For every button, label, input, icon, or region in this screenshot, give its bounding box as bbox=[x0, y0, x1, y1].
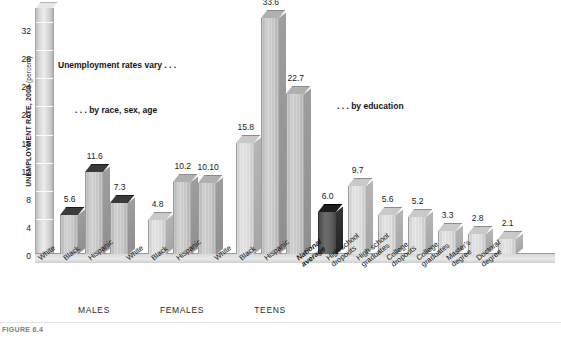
y-tick-label: 20 bbox=[22, 110, 31, 120]
axis-wall-rib bbox=[36, 191, 53, 192]
bar-value-label: 4.8 bbox=[152, 199, 164, 209]
y-tick-label: 12 bbox=[22, 167, 31, 177]
bar-value-label: 3.3 bbox=[442, 210, 454, 220]
y-tick-label: 8 bbox=[26, 195, 31, 205]
bar-value-label: 5.2 bbox=[412, 196, 424, 206]
bar-value-label: 11.6 bbox=[87, 151, 103, 161]
bar-value-label: 5.6 bbox=[382, 194, 394, 204]
bar-front-face bbox=[261, 18, 281, 254]
figure-container: UNEMPLOYMENT RATE, 2003 (percent) 048121… bbox=[0, 0, 561, 337]
bar-side-face bbox=[254, 137, 261, 254]
axis-wall-rib bbox=[36, 163, 53, 164]
annotation-by-education: . . . by education bbox=[337, 101, 404, 111]
bar: 15.8 bbox=[236, 143, 254, 254]
bar-value-label: 2.8 bbox=[472, 213, 484, 223]
axis-wall-rib bbox=[36, 106, 53, 107]
bar: 11.6 bbox=[85, 172, 103, 254]
bar-value-label: 5.6 bbox=[64, 194, 76, 204]
bar-side-face bbox=[304, 89, 311, 254]
annotation-by-race-sex-age: . . . by race, sex, age bbox=[75, 105, 157, 115]
bar-front-face bbox=[286, 94, 306, 254]
bar-value-label: 10.10 bbox=[197, 162, 218, 172]
figure-caption: FIGURE 6.4 bbox=[2, 326, 43, 333]
bar-value-label: 15.8 bbox=[238, 122, 255, 132]
group-label: MALES bbox=[78, 305, 110, 315]
y-tick-label: 4 bbox=[26, 223, 31, 233]
axis-wall-rib bbox=[36, 135, 53, 136]
bar-series: 5.611.67.34.810.210.1015.833.622.76.09.7… bbox=[52, 15, 555, 254]
y-tick-label: 16 bbox=[22, 139, 31, 149]
bar-value-label: 22.7 bbox=[288, 73, 305, 83]
y-tick-label: 24 bbox=[22, 82, 31, 92]
axis-wall-rib bbox=[36, 78, 53, 79]
axis-wall-rib bbox=[36, 22, 53, 23]
bar-value-label: 2.1 bbox=[502, 218, 514, 228]
bar-value-label: 33.6 bbox=[263, 0, 280, 7]
bar-value-label: 10.2 bbox=[175, 161, 192, 171]
axis-wall-rib bbox=[36, 50, 53, 51]
plot-area: 048121620242832 5.611.67.34.810.210.1015… bbox=[27, 8, 555, 263]
y-tick-label: 28 bbox=[22, 54, 31, 64]
bar: 22.7 bbox=[286, 94, 304, 254]
bar-front-face bbox=[236, 143, 256, 254]
bar-side-face bbox=[279, 12, 286, 254]
annotation-rates-vary: Unemployment rates vary . . . bbox=[58, 60, 176, 70]
bar-value-label: 9.7 bbox=[352, 165, 364, 175]
axis-wall-rib bbox=[36, 219, 53, 220]
bar: 33.6 bbox=[261, 18, 279, 254]
bar-value-label: 7.3 bbox=[114, 182, 126, 192]
caption-divider bbox=[0, 322, 561, 323]
y-tick-label: 32 bbox=[22, 26, 31, 36]
bar-side-face bbox=[216, 178, 223, 254]
group-label: TEENS bbox=[254, 305, 285, 315]
group-label: FEMALES bbox=[160, 305, 204, 315]
bar-side-face bbox=[128, 197, 135, 254]
bar-value-label: 6.0 bbox=[322, 191, 334, 201]
